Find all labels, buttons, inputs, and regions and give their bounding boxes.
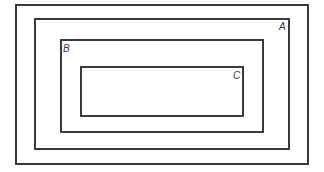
set-a-label: A: [279, 22, 286, 32]
set-c-label: C: [233, 71, 240, 81]
set-c-rect: [80, 66, 244, 117]
set-b-label: B: [63, 44, 70, 54]
